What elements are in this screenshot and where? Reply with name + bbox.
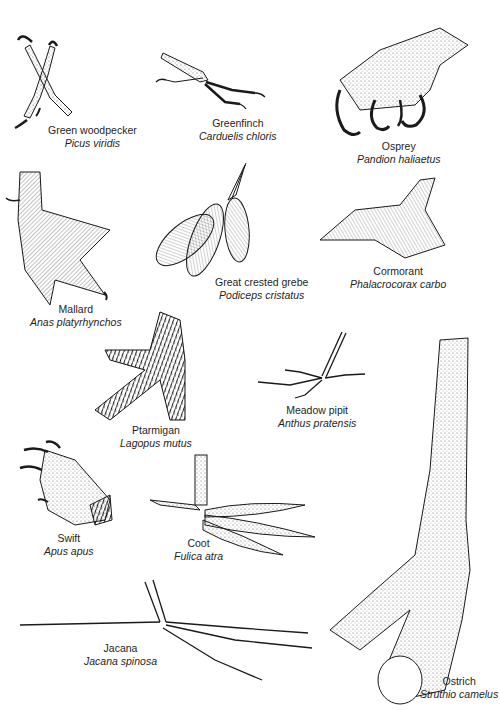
label-cormorant: Cormorant Phalacrocorax carbo — [350, 265, 446, 291]
latin-name: Carduelis chloris — [199, 130, 277, 143]
latin-name: Podiceps cristatus — [215, 289, 308, 302]
common-name: Coot — [174, 537, 223, 550]
label-ptarmigan: Ptarmigan Lagopus mutus — [120, 424, 192, 450]
greenfinch-foot-drawing — [156, 53, 265, 109]
common-name: Swift — [44, 532, 94, 545]
latin-name: Fulica atra — [174, 550, 223, 563]
label-osprey: Osprey Pandion haliaetus — [357, 140, 440, 166]
common-name: Green woodpecker — [48, 124, 137, 137]
ostrich-foot-drawing — [330, 338, 470, 704]
cormorant-foot-drawing — [320, 178, 445, 258]
common-name: Ostrich — [420, 675, 498, 688]
latin-name: Lagopus mutus — [120, 437, 192, 450]
latin-name: Apus apus — [44, 545, 94, 558]
osprey-foot-drawing — [337, 28, 468, 135]
latin-name: Picus viridis — [48, 137, 137, 150]
great-crested-grebe-foot-drawing — [148, 163, 252, 280]
latin-name: Anthus pratensis — [278, 417, 356, 430]
mallard-foot-drawing — [6, 172, 110, 305]
common-name: Osprey — [357, 140, 440, 153]
label-coot: Coot Fulica atra — [174, 537, 223, 563]
label-swift: Swift Apus apus — [44, 532, 94, 558]
latin-name: Pandion haliaetus — [357, 153, 440, 166]
label-green-woodpecker: Green woodpecker Picus viridis — [48, 124, 137, 150]
illustrations — [0, 0, 500, 710]
label-meadow-pipit: Meadow pipit Anthus pratensis — [278, 404, 356, 430]
label-mallard: Mallard Anas platyrhynchos — [30, 303, 122, 329]
swift-foot-drawing — [20, 442, 112, 525]
common-name: Cormorant — [350, 265, 446, 278]
green-woodpecker-foot-drawing — [15, 36, 72, 128]
label-great-crested-grebe: Great crested grebe Podiceps cristatus — [215, 276, 308, 302]
common-name: Greenfinch — [199, 117, 277, 130]
common-name: Jacana — [84, 642, 157, 655]
common-name: Meadow pipit — [278, 404, 356, 417]
jacana-foot-drawing — [20, 580, 312, 680]
common-name: Mallard — [30, 303, 122, 316]
common-name: Ptarmigan — [120, 424, 192, 437]
common-name: Great crested grebe — [215, 276, 308, 289]
bird-feet-plate: Green woodpecker Picus viridis Greenfinc… — [0, 0, 500, 710]
meadow-pipit-foot-drawing — [258, 332, 365, 398]
latin-name: Struthio camelus — [420, 688, 498, 701]
label-jacana: Jacana Jacana spinosa — [84, 642, 157, 668]
label-greenfinch: Greenfinch Carduelis chloris — [199, 117, 277, 143]
label-ostrich: Ostrich Struthio camelus — [420, 675, 498, 701]
latin-name: Phalacrocorax carbo — [350, 278, 446, 291]
latin-name: Anas platyrhynchos — [30, 316, 122, 329]
latin-name: Jacana spinosa — [84, 655, 157, 668]
